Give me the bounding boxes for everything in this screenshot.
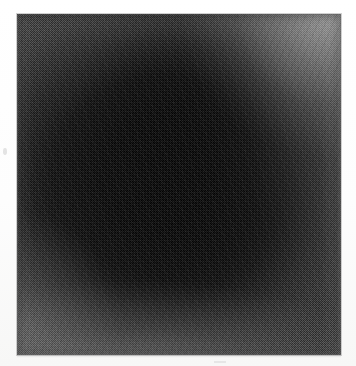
panel-dark-mass-lower (17, 14, 341, 355)
panel-inner-shadow (17, 14, 341, 355)
panel-dark-mass-upper (17, 14, 341, 355)
page-canvas (0, 0, 356, 366)
panel-base-gradient (17, 14, 341, 355)
scanned-dark-panel (17, 14, 341, 355)
scan-speck-bottom-margin (214, 361, 226, 363)
panel-highlight-bottom (17, 14, 341, 355)
halftone-mottle-texture (17, 14, 341, 355)
panel-dark-mass-main (17, 14, 341, 355)
scan-speck-left-margin (3, 148, 7, 155)
halftone-edge-emphasis (17, 14, 341, 355)
halftone-crosshatch-texture (17, 14, 341, 355)
halftone-dither-texture (17, 14, 341, 355)
panel-drop-shadow (17, 355, 341, 358)
panel-edge-light-seep (17, 14, 341, 355)
panel-highlight-top-right (17, 14, 341, 355)
